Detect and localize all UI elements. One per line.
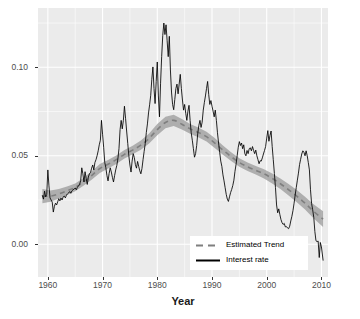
x-axis: 196019701980199020002010 — [0, 281, 360, 295]
x-tick-mark — [157, 277, 158, 280]
x-tick-mark — [48, 277, 49, 280]
x-tick-label: 2000 — [257, 281, 276, 290]
confidence-ribbon — [42, 115, 323, 227]
x-tick-mark — [321, 277, 322, 280]
x-tick-label: 2010 — [312, 281, 331, 290]
y-axis: 0.000.050.10 — [0, 0, 33, 319]
legend-item-interest-rate[interactable]: Interest rate — [190, 253, 308, 268]
y-tick-mark — [35, 156, 38, 157]
legend-label-estimated-trend: Estimated Trend — [226, 241, 284, 250]
legend: Estimated Trend Interest rate — [190, 236, 308, 270]
x-tick-label: 1970 — [93, 281, 112, 290]
x-tick-mark — [212, 277, 213, 280]
y-tick-label: 0.00 — [0, 240, 28, 249]
data-series — [42, 23, 323, 260]
x-tick-label: 1960 — [38, 281, 57, 290]
legend-label-interest-rate: Interest rate — [226, 256, 269, 265]
chart-container: 0.000.050.10 Estimated Trend — [0, 0, 360, 319]
x-axis-title: Year — [38, 296, 328, 307]
y-tick-mark — [35, 244, 38, 245]
legend-key-solid-line-icon — [194, 253, 222, 268]
legend-item-estimated-trend[interactable]: Estimated Trend — [190, 238, 308, 253]
x-tick-label: 1980 — [148, 281, 167, 290]
x-tick-mark — [103, 277, 104, 280]
x-tick-mark — [267, 277, 268, 280]
x-tick-label: 1990 — [203, 281, 222, 290]
legend-key-dashed-line-icon — [194, 238, 222, 253]
y-tick-label: 0.05 — [0, 151, 28, 160]
y-tick-mark — [35, 67, 38, 68]
y-tick-label: 0.10 — [0, 63, 28, 72]
plot-panel: Estimated Trend Interest rate — [38, 8, 328, 277]
